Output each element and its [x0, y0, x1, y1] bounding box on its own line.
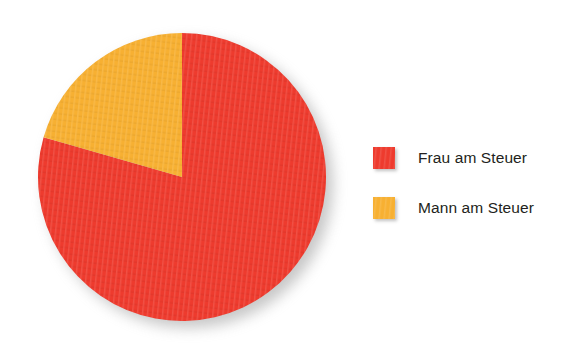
pie-chart: [38, 33, 326, 321]
legend-label-mann: Mann am Steuer: [418, 197, 534, 219]
legend-swatch-mann-icon: [373, 197, 395, 219]
legend-swatch-frau-icon: [373, 147, 395, 169]
pie-svg: [38, 33, 326, 321]
chart-canvas: Frau am Steuer Mann am Steuer: [0, 0, 579, 353]
legend-label-frau: Frau am Steuer: [418, 147, 527, 169]
legend-item-mann[interactable]: Mann am Steuer: [373, 197, 573, 219]
chart-legend: Frau am Steuer Mann am Steuer: [373, 147, 573, 219]
legend-item-frau[interactable]: Frau am Steuer: [373, 147, 573, 169]
